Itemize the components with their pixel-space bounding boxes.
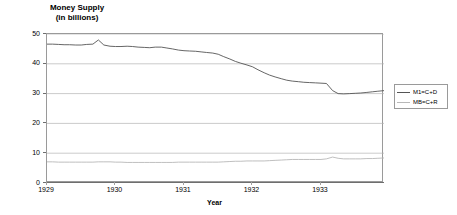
plot-svg	[47, 34, 384, 183]
x-tick-mark	[251, 182, 252, 185]
legend-label-m1: M1=C+D	[413, 89, 437, 96]
chart-subtitle: (in billions)	[22, 13, 132, 23]
y-tick-label: 40	[20, 59, 40, 66]
x-axis-title: Year	[46, 199, 383, 206]
x-tick-mark	[183, 182, 184, 185]
series-line-mb	[47, 157, 384, 162]
legend: M1=C+D MB=C+R	[394, 84, 448, 109]
y-tick-label: 0	[20, 179, 40, 186]
x-tick-label: 1930	[99, 186, 129, 193]
plot-area	[46, 33, 383, 182]
y-tick-label: 20	[20, 119, 40, 126]
x-tick-mark	[320, 182, 321, 185]
x-tick-label: 1929	[31, 186, 61, 193]
chart-title-block: Money Supply (in billions)	[22, 3, 132, 23]
y-tick-label: 10	[20, 149, 40, 156]
x-tick-label: 1932	[236, 186, 266, 193]
legend-swatch-m1	[397, 92, 410, 93]
legend-item-m1: M1=C+D	[397, 87, 445, 97]
legend-item-mb: MB=C+R	[397, 97, 445, 107]
series-line-m1	[47, 40, 384, 94]
legend-label-mb: MB=C+R	[413, 99, 438, 106]
y-tick-label: 50	[20, 30, 40, 37]
chart-title: Money Supply	[22, 3, 132, 13]
series-group	[47, 40, 384, 162]
x-tick-label: 1933	[305, 186, 335, 193]
x-axis-line	[46, 182, 384, 183]
legend-swatch-mb	[397, 102, 410, 103]
money-supply-chart: Money Supply (in billions) 01020304050 1…	[0, 0, 457, 215]
x-tick-mark	[114, 182, 115, 185]
x-tick-mark	[46, 182, 47, 185]
gridline-group	[47, 34, 384, 153]
y-tick-label: 30	[20, 89, 40, 96]
x-tick-label: 1931	[168, 186, 198, 193]
